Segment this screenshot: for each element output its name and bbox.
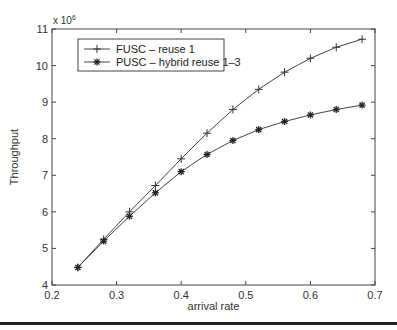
x-axis-label: arrival rate [188,300,240,312]
legend-label: PUSC – hybrid reuse 1–3 [116,56,241,68]
y-tick-label: 6 [42,206,48,218]
y-tick-label: 10 [36,60,48,72]
x-tick-label: 0.3 [109,289,124,301]
x-tick-label: 0.7 [367,289,382,301]
y-multiplier: x 106 [53,14,76,26]
y-tick-label: 8 [42,133,48,145]
y-tick-label: 5 [42,242,48,254]
y-tick-label: 9 [42,96,48,108]
bottom-rule [0,322,397,325]
x-tick-label: 0.5 [238,289,253,301]
series-line-1 [78,39,362,267]
x-tick-label: 0.6 [303,289,318,301]
y-axis-label: Throughput [8,129,20,185]
y-tick-label: 7 [42,169,48,181]
throughput-chart: 0.20.30.40.50.60.74567891011x 106arrival… [0,0,397,330]
y-tick-label: 11 [37,23,48,35]
legend-label: FUSC – reuse 1 [116,43,195,55]
y-tick-label: 4 [42,279,48,291]
series-line-2 [78,105,362,267]
